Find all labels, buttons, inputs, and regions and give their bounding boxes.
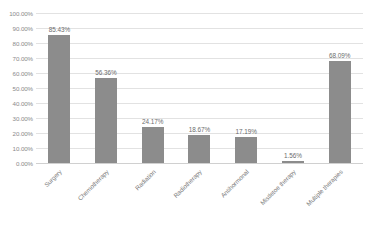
bar-value-label: 68.09% [329,52,350,59]
y-axis-tick-label: 70.00% [13,55,33,62]
x-axis-category-labels: SurgeryChemotherapyRadiationRadiotherapy… [36,166,363,232]
y-axis-tick-labels: 0.00%10.00%20.00%30.00%40.00%50.00%60.00… [0,13,33,163]
x-axis-category-label-text: Radiation [133,168,156,191]
x-axis-category-label-text: Antihormonal [219,168,250,199]
bar-value-label: 56.36% [95,69,116,76]
bar-value-label: 24.17% [142,118,163,125]
y-axis-tick-label: 50.00% [13,85,33,92]
y-axis-tick-label: 60.00% [13,70,33,77]
y-axis-tick-label: 90.00% [13,25,33,32]
x-axis-category-label-text: Radiotherapy [172,168,203,199]
gridline [36,163,363,164]
y-axis-tick-label: 80.00% [13,40,33,47]
y-axis-tick-label: 20.00% [13,130,33,137]
x-axis-category-slot: Radiation [129,166,176,232]
y-axis-tick-label: 100.00% [9,10,33,17]
x-axis-category-label-text: Surgery [43,168,63,188]
bar-slot: 85.43% [36,13,83,163]
bar-slot: 24.17% [129,13,176,163]
bars-layer: 85.43%56.36%24.17%18.67%17.19%1.56%68.09… [36,13,363,163]
bar-value-label: 18.67% [189,126,210,133]
bar-value-label: 85.43% [49,26,70,33]
y-axis-tick-label: 10.00% [13,145,33,152]
y-axis-tick-label: 40.00% [13,100,33,107]
bar-value-label: 17.19% [236,128,257,135]
x-axis-category-slot: Multiple therapies [316,166,363,232]
bar-slot: 56.36% [83,13,130,163]
bar[interactable] [95,78,117,163]
bar-slot: 17.19% [223,13,270,163]
x-axis-category-slot: Chemotherapy [83,166,130,232]
bar[interactable] [48,35,70,163]
x-axis-category-slot: Radiotherapy [176,166,223,232]
bar-slot: 1.56% [270,13,317,163]
y-axis-tick-label: 30.00% [13,115,33,122]
bar-chart: 0.00%10.00%20.00%30.00%40.00%50.00%60.00… [0,0,369,235]
bar-value-label: 1.56% [284,152,302,159]
bar[interactable] [329,61,351,163]
bar-slot: 18.67% [176,13,223,163]
y-axis-tick-label: 0.00% [16,160,33,167]
x-axis-category-slot: Surgery [36,166,83,232]
